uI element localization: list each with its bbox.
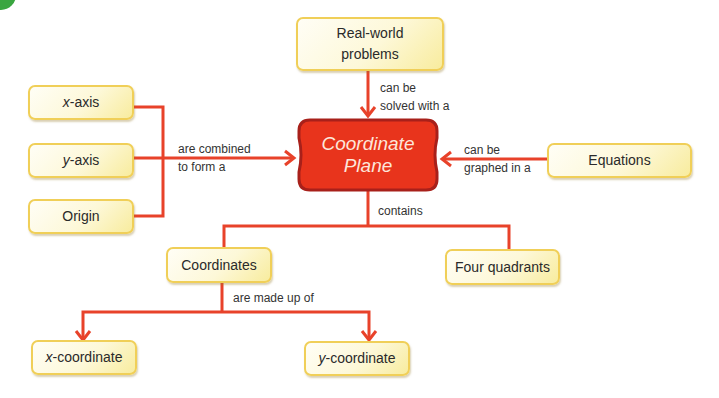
node-text-line1: Real-world xyxy=(337,23,404,44)
node-four-quadrants[interactable]: Four quadrants xyxy=(445,249,560,285)
edge-label-made-up-of: are made up of xyxy=(233,289,314,307)
center-node-coordinate-plane[interactable]: CoordinatePlane xyxy=(299,120,437,190)
edge-label-line1: are combined xyxy=(178,140,251,158)
node-text: -coordinate xyxy=(52,349,122,365)
node-x-coordinate[interactable]: x-coordinate xyxy=(31,340,137,375)
node-text: Origin xyxy=(62,206,99,227)
variable-y: y xyxy=(63,152,70,168)
edge-label-line2: solved with a xyxy=(380,97,449,115)
node-text: Four quadrants xyxy=(455,257,550,278)
center-line1: Coordinate xyxy=(322,133,415,155)
node-coordinates[interactable]: Coordinates xyxy=(166,247,272,283)
node-text-line2: problems xyxy=(337,44,404,65)
edge-label-combined: are combined to form a xyxy=(178,140,251,176)
variable-x: x xyxy=(63,94,70,110)
node-y-axis[interactable]: y-axis xyxy=(28,143,134,178)
node-equations[interactable]: Equations xyxy=(547,143,692,178)
edge-label-line2: graphed in a xyxy=(464,159,531,177)
node-y-coordinate[interactable]: y-coordinate xyxy=(304,341,410,376)
node-origin[interactable]: Origin xyxy=(28,199,134,234)
edge-label-line2: to form a xyxy=(178,158,251,176)
edge-label-contains: contains xyxy=(378,202,423,220)
edge-label-line1: can be xyxy=(464,141,531,159)
node-text: -coordinate xyxy=(325,350,395,366)
edge-label-line1: can be xyxy=(380,79,449,97)
edge-label-solved: can be solved with a xyxy=(380,79,449,115)
node-text: -axis xyxy=(70,94,100,110)
node-text: Equations xyxy=(588,150,650,171)
edge-label-graphed: can be graphed in a xyxy=(464,141,531,177)
node-x-axis[interactable]: x-axis xyxy=(28,85,134,120)
node-real-world-problems[interactable]: Real-worldproblems xyxy=(296,17,444,71)
center-line2: Plane xyxy=(322,155,415,177)
node-text: Coordinates xyxy=(181,255,257,276)
node-text: -axis xyxy=(70,152,100,168)
